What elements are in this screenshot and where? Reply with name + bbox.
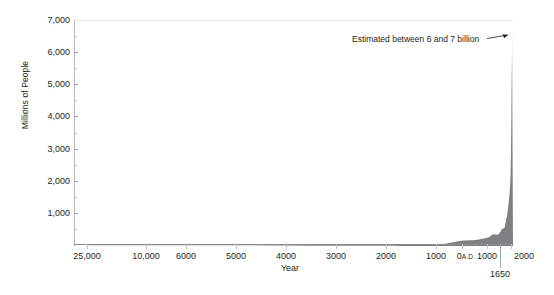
x-tick-label: 5000 (226, 252, 246, 261)
y-tick-label: 3,000 (2, 145, 70, 154)
y-axis-ticks: 7,000 6,000 5,000 4,000 3,000 2,000 1,00… (0, 0, 70, 295)
x-axis-line (74, 244, 512, 245)
x-tick-mark (186, 244, 187, 249)
x-tick-label-zero-ad: 0A.D. (457, 252, 475, 261)
population-chart-figure: Millions of People 7,000 6,000 5,000 4,0… (0, 0, 554, 295)
plot-area (74, 20, 513, 246)
y-tick-label: 5,000 (2, 80, 70, 89)
y-tick-label: 4,000 (2, 112, 70, 121)
x-tick-label-ad-suffix: A.D. (462, 253, 475, 260)
x-tick-mark (511, 244, 512, 249)
x-tick-mark (336, 244, 337, 249)
x-tick-mark (436, 244, 437, 249)
x-axis-title: Year (281, 264, 299, 273)
x-tick-mark (462, 244, 463, 249)
x-tick-mark (146, 244, 147, 249)
x-tick-label: 2000 (514, 252, 534, 261)
y-tick-label: 2,000 (2, 177, 70, 186)
x-tick-mark (386, 244, 387, 249)
x-tick-label: 3000 (326, 252, 346, 261)
x-tick-mark (236, 244, 237, 249)
x-tick-label: 2000 (376, 252, 396, 261)
y-tick-label: 7,000 (2, 16, 70, 25)
x-tick-mark (87, 244, 88, 249)
x-tick-mark (286, 244, 287, 249)
x-tick-label: 1000 (477, 252, 497, 261)
callout-label-1650: 1650 (490, 270, 510, 279)
chart-annotation-text: Estimated between 6 and 7 billion (352, 34, 479, 44)
x-tick-mark (487, 244, 488, 249)
callout-leader-line-1650 (500, 244, 501, 268)
x-tick-label: 6000 (176, 252, 196, 261)
population-area-series (75, 21, 513, 246)
x-tick-label: 1000 (426, 252, 446, 261)
x-tick-label: 10,000 (132, 252, 160, 261)
y-tick-label: 1,000 (2, 209, 70, 218)
x-tick-label: 25,000 (73, 252, 101, 261)
y-tick-label: 6,000 (2, 48, 70, 57)
x-tick-label: 4000 (276, 252, 296, 261)
